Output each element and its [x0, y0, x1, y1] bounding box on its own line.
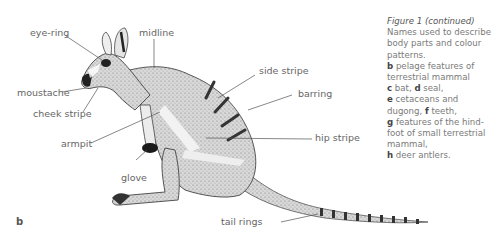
caption-item-b: b pelage features of terrestrial mammal: [387, 61, 492, 83]
eye: [101, 59, 111, 67]
label-midline: midline: [139, 28, 174, 38]
label-hip-stripe: hip stripe: [315, 133, 360, 143]
caption-item-ef: e cetaceans and dugong, f teeth,: [387, 94, 492, 116]
tail-rings-marks: [320, 208, 419, 224]
head: [82, 53, 150, 110]
caption-item-h: h deer antlers.: [387, 150, 492, 161]
panel-letter: b: [16, 216, 23, 227]
caption-item-cd: c bat, d seal,: [387, 83, 492, 94]
caption-item-g: g features of the hind-foot of small ter…: [387, 117, 492, 151]
label-tail-rings: tail rings: [221, 217, 262, 227]
glove-paw: [142, 143, 158, 153]
caption-intro: Names used to describe body parts and co…: [387, 27, 492, 61]
label-barring: barring: [298, 89, 332, 99]
label-glove: glove: [121, 173, 147, 183]
label-cheek-stripe: cheek stripe: [33, 109, 92, 119]
caption-title: Figure 1 (continued): [387, 16, 492, 27]
label-eye-ring: eye-ring: [30, 28, 69, 38]
label-moustache: moustache: [17, 88, 70, 98]
figure-caption: Figure 1 (continued) Names used to descr…: [387, 16, 492, 162]
label-armpit: armpit: [61, 139, 92, 149]
label-side-stripe: side stripe: [259, 66, 309, 76]
